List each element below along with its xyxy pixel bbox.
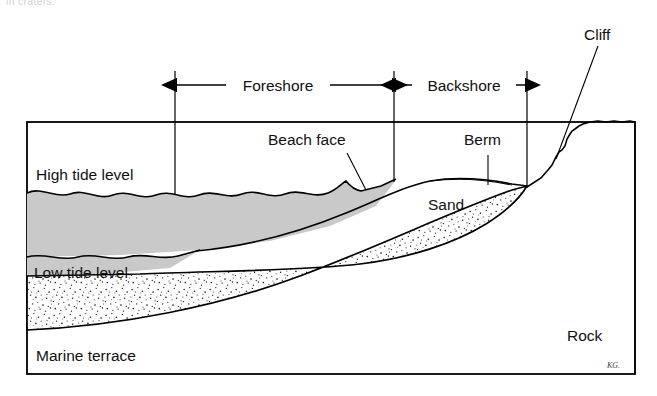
- beach-profile-diagram: Foreshore Backshore Beach face Berm Clif…: [0, 0, 657, 396]
- label-sand: Sand: [428, 196, 464, 213]
- label-backshore: Backshore: [427, 77, 500, 94]
- label-low-tide-level: Low tide level: [34, 264, 128, 281]
- label-foreshore: Foreshore: [243, 77, 314, 94]
- label-marine-terrace: Marine terrace: [36, 347, 136, 364]
- label-rock: Rock: [567, 327, 603, 344]
- label-beach-face: Beach face: [268, 131, 346, 148]
- label-cliff: Cliff: [584, 26, 611, 43]
- label-berm: Berm: [464, 131, 501, 148]
- label-high-tide-level: High tide level: [36, 166, 133, 183]
- artist-signature: KG.: [606, 361, 620, 370]
